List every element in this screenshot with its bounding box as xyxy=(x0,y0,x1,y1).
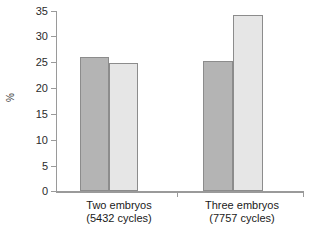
x-axis-line xyxy=(56,191,304,193)
bar-two-embryos-series-1 xyxy=(80,57,109,191)
bar-chart: % 35 30 25 20 15 10 5 0 Two embryos (543… xyxy=(0,0,310,224)
bar-three-embryos-series-1 xyxy=(203,61,233,191)
plot-area xyxy=(56,11,304,191)
x-tick-end xyxy=(303,192,304,197)
y-tick-label-25: 25 xyxy=(8,57,48,68)
y-tick-label-30: 30 xyxy=(8,31,48,42)
y-tick-label-35: 35 xyxy=(8,6,48,17)
x-group-label-sub: (5432 cycles) xyxy=(61,212,177,225)
x-tick-group-divider xyxy=(177,192,178,197)
y-tick-label-15: 15 xyxy=(8,109,48,120)
x-group-label-sub: (7757 cycles) xyxy=(180,212,304,225)
x-group-label-main: Two embryos xyxy=(86,199,151,211)
x-group-label-main: Three embryos xyxy=(205,199,279,211)
y-tick-label-0: 0 xyxy=(8,186,48,197)
x-group-label-two-embryos: Two embryos (5432 cycles) xyxy=(61,199,177,224)
x-group-label-three-embryos: Three embryos (7757 cycles) xyxy=(180,199,304,224)
y-tick-label-20: 20 xyxy=(8,83,48,94)
bar-two-embryos-series-2 xyxy=(109,63,138,191)
y-tick-label-5: 5 xyxy=(8,161,48,172)
y-tick-label-10: 10 xyxy=(8,135,48,146)
bar-three-embryos-series-2 xyxy=(233,15,263,191)
